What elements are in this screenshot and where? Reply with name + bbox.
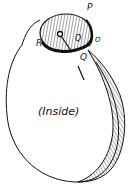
label-r: R — [36, 38, 42, 48]
label-o: O — [95, 36, 101, 44]
label-inside: (Inside) — [38, 105, 79, 118]
surface-diagram: P R Q Q O (Inside) — [0, 0, 135, 188]
point-o-circle — [58, 32, 63, 37]
label-p: P — [87, 2, 93, 12]
tick-mark — [78, 66, 84, 80]
label-q-lower: Q — [80, 52, 87, 62]
label-q-upper: Q — [75, 34, 81, 43]
